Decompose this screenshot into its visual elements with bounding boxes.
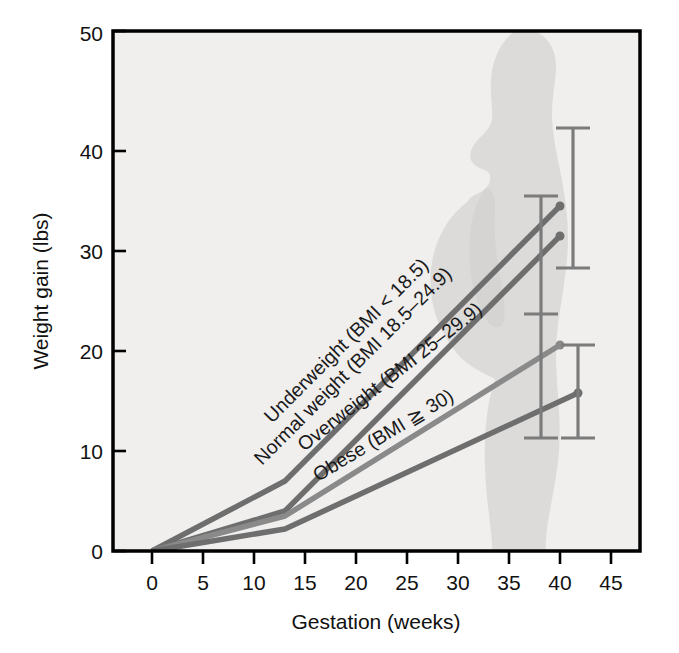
x-tick-label: 35 <box>497 571 520 594</box>
x-tick-label: 30 <box>446 571 469 594</box>
series-endpoint-underweight <box>556 202 565 211</box>
y-tick-label: 0 <box>91 540 103 563</box>
x-tick-label: 20 <box>344 571 367 594</box>
y-tick-label: 20 <box>80 340 103 363</box>
chart-figure: 0 10 20 30 40 50 0 5 10 15 20 25 30 35 4… <box>0 0 679 653</box>
x-tick-label: 45 <box>599 571 622 594</box>
weight-gain-gestation-chart: 0 10 20 30 40 50 0 5 10 15 20 25 30 35 4… <box>0 0 679 653</box>
x-tick-label: 0 <box>146 571 158 594</box>
y-tick-label: 30 <box>80 240 103 263</box>
y-axis-title: Weight gain (lbs) <box>29 212 52 369</box>
y-tick-label: 10 <box>80 440 103 463</box>
x-tick-label: 10 <box>242 571 265 594</box>
y-tick-label: 50 <box>80 22 103 45</box>
series-endpoint-normal-weight <box>556 232 565 241</box>
x-tick-label: 25 <box>395 571 418 594</box>
x-axis-title: Gestation (weeks) <box>291 610 460 633</box>
y-tick-label: 40 <box>80 140 103 163</box>
x-tick-label: 40 <box>548 571 571 594</box>
x-tick-label: 5 <box>197 571 209 594</box>
x-tick-label: 15 <box>293 571 316 594</box>
